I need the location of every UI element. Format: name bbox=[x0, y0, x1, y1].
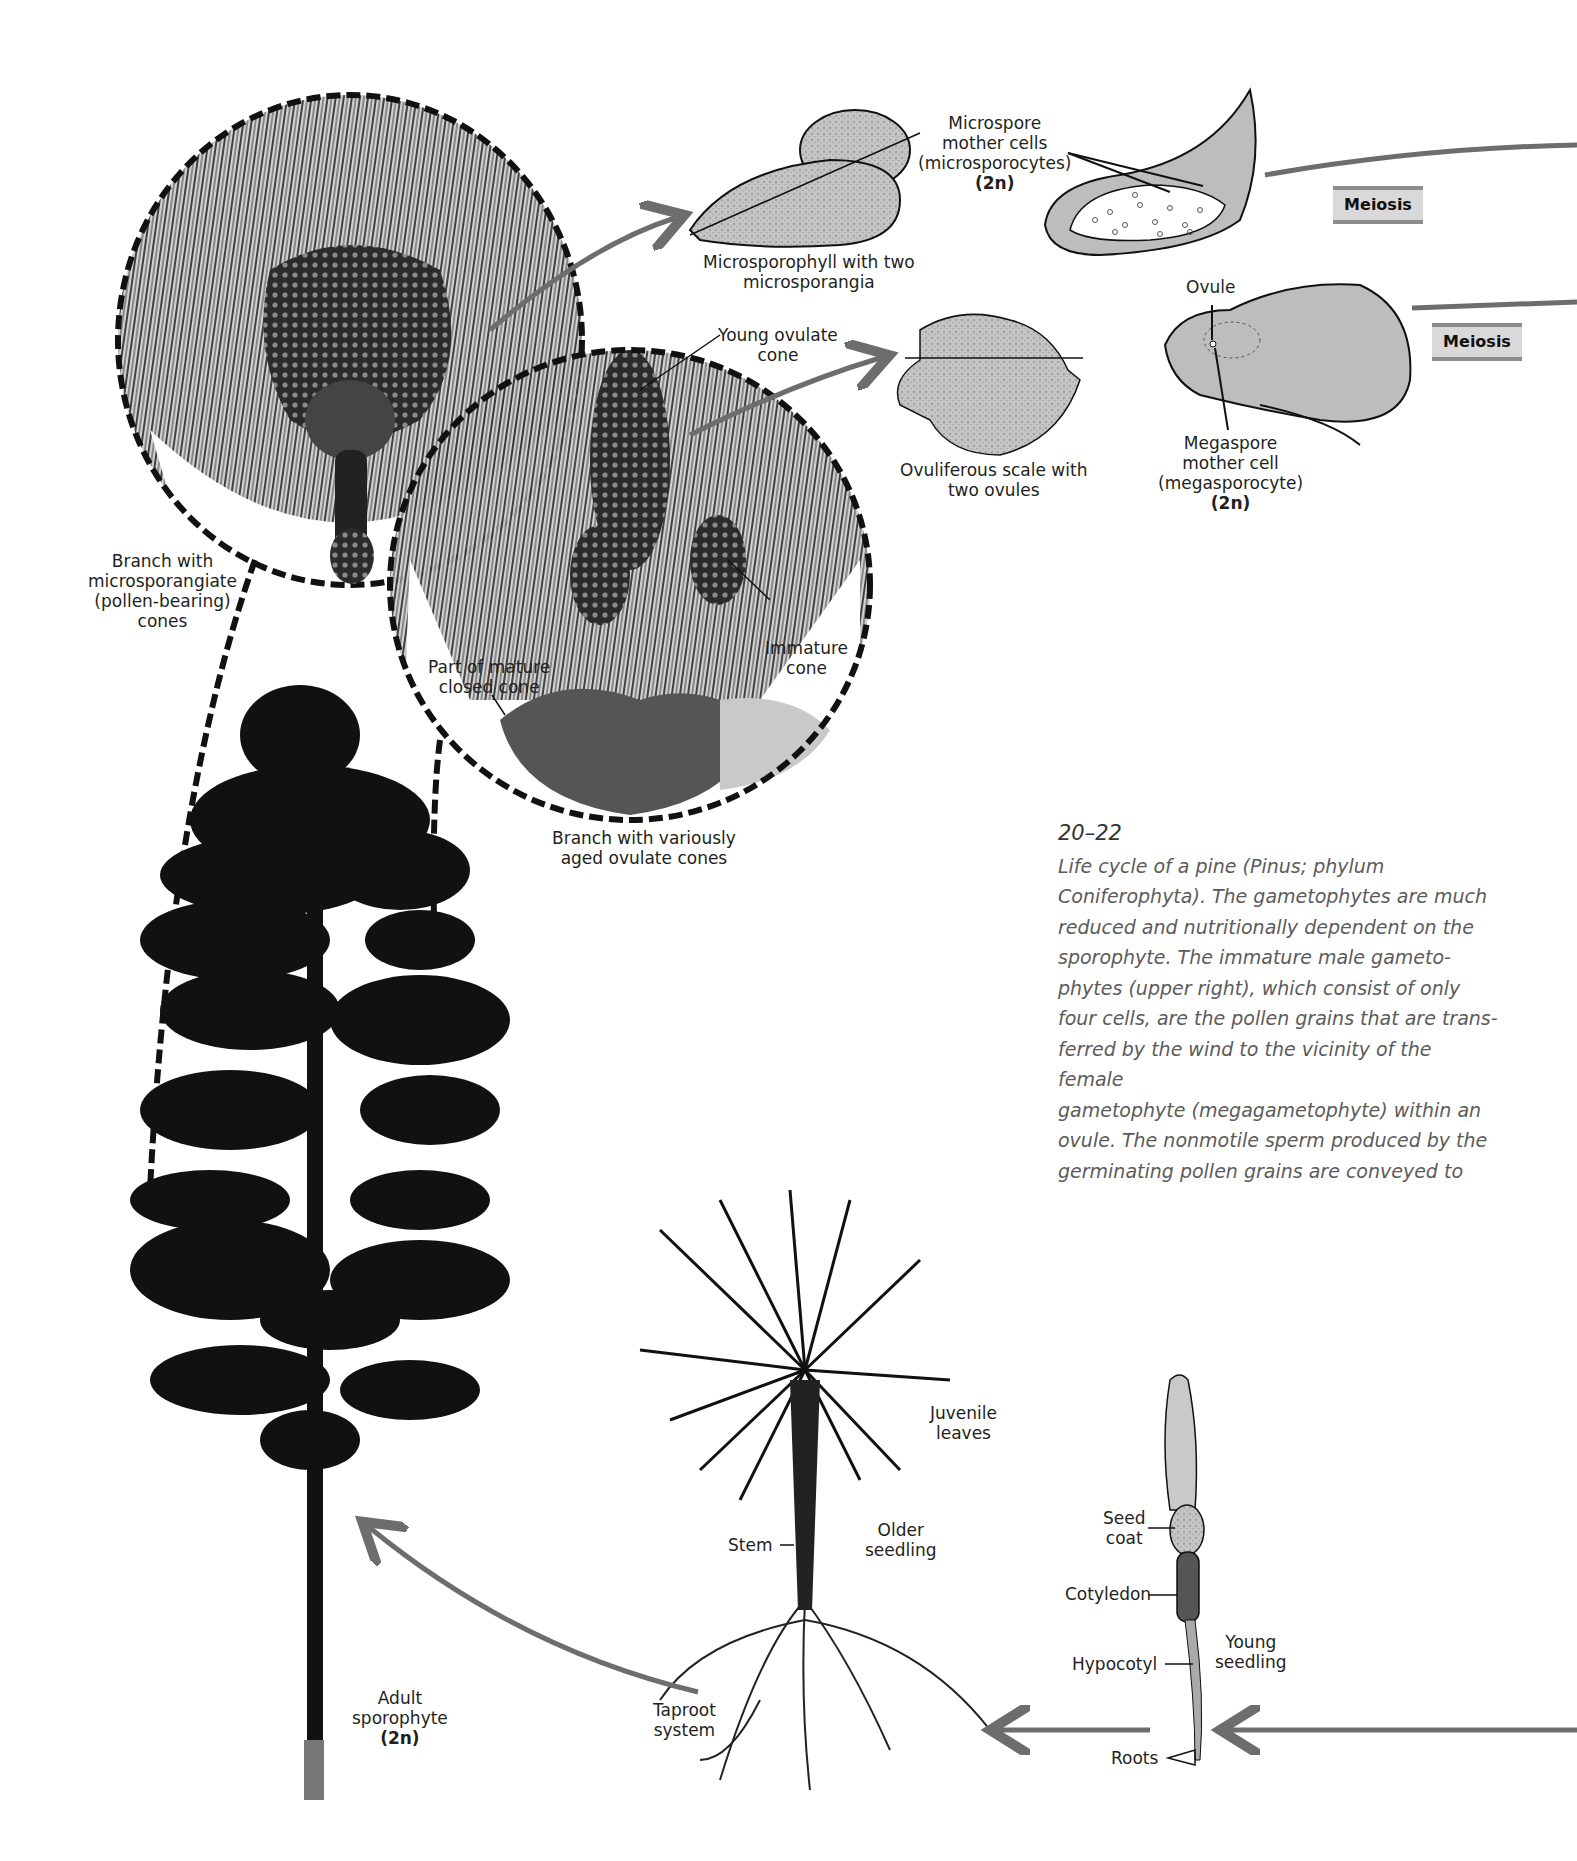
ovule-section bbox=[1165, 284, 1410, 445]
label-immature-cone: Immature cone bbox=[765, 638, 848, 678]
label-microsporophyll: Microsporophyll with two microsporangia bbox=[703, 252, 915, 292]
label-juvenile-leaves: Juvenile leaves bbox=[930, 1403, 997, 1443]
label-older-seedling: Older seedling bbox=[865, 1520, 937, 1560]
caption-line: phytes (upper right), which consist of o… bbox=[1058, 973, 1498, 1004]
label-young-ovulate-cone: Young ovulate cone bbox=[718, 325, 838, 365]
ovuliferous-scale bbox=[898, 314, 1084, 455]
label-ovule: Ovule bbox=[1186, 277, 1235, 297]
label-adult-sporophyte: Adult sporophyte (2n) bbox=[352, 1688, 448, 1748]
label-taproot-system: Taproot system bbox=[653, 1700, 716, 1740]
label-cotyledon: Cotyledon bbox=[1065, 1584, 1151, 1604]
adult-sporophyte-tree bbox=[130, 685, 510, 1800]
label-stem: Stem bbox=[728, 1535, 772, 1555]
figure-number: 20–22 bbox=[1058, 818, 1498, 849]
label-young-seedling: Young seedling bbox=[1215, 1632, 1287, 1672]
figure-caption: 20–22 Life cycle of a pine (Pinus; phylu… bbox=[1058, 818, 1498, 1186]
caption-line: germinating pollen grains are conveyed t… bbox=[1058, 1156, 1498, 1187]
meiosis-box-bottom: Meiosis bbox=[1432, 323, 1522, 361]
microsporangium-section bbox=[1045, 90, 1256, 255]
microsporophyll bbox=[690, 110, 920, 247]
caption-line: four cells, are the pollen grains that a… bbox=[1058, 1003, 1498, 1034]
caption-line: reduced and nutritionally dependent on t… bbox=[1058, 912, 1498, 943]
label-roots: Roots bbox=[1111, 1748, 1158, 1768]
young-seedling bbox=[1165, 1375, 1204, 1760]
caption-line: Life cycle of a pine (Pinus; phylum bbox=[1058, 851, 1498, 882]
caption-line: ovule. The nonmotile sperm produced by t… bbox=[1058, 1125, 1498, 1156]
label-megaspore-mother-cell: Megaspore mother cell (megasporocyte) (2… bbox=[1158, 433, 1303, 513]
label-branch-microsporangiate: Branch with microsporangiate (pollen-bea… bbox=[88, 551, 237, 631]
meiosis-box-top: Meiosis bbox=[1333, 186, 1423, 224]
caption-line: sporophyte. The immature male gameto- bbox=[1058, 942, 1498, 973]
label-branch-ovulate: Branch with variously aged ovulate cones bbox=[552, 828, 736, 868]
label-ovuliferous-scale: Ovuliferous scale with two ovules bbox=[900, 460, 1087, 500]
label-microspore-mother-cells: Microspore mother cells (microsporocytes… bbox=[918, 113, 1071, 193]
caption-line: Coniferophyta). The gametophytes are muc… bbox=[1058, 881, 1498, 912]
caption-line: ferred by the wind to the vicinity of th… bbox=[1058, 1034, 1498, 1095]
label-hypocotyl: Hypocotyl bbox=[1072, 1654, 1157, 1674]
label-seed-coat: Seed coat bbox=[1103, 1508, 1146, 1548]
label-mature-closed-cone: Part of mature closed cone bbox=[428, 657, 550, 697]
ovulate-branch-circle bbox=[390, 350, 870, 820]
caption-line: gametophyte (megagametophyte) within an bbox=[1058, 1095, 1498, 1126]
